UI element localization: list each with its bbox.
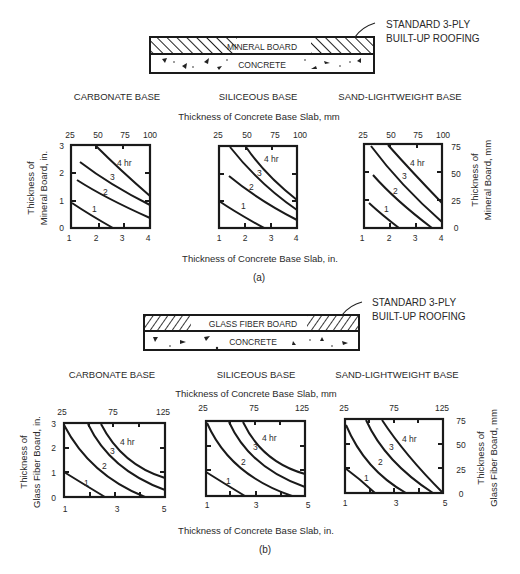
- chart-a-carbonate: 255075100 1 2 3 4 hr 0123 1234: [59, 130, 157, 243]
- svg-text:2575125: 2575125: [57, 407, 170, 417]
- y-ticks-in: 0123: [59, 141, 64, 233]
- svg-text:2575125: 2575125: [339, 403, 449, 413]
- right-axis-title-b1: Thickness of: [475, 431, 486, 485]
- hatch-left-b: [145, 315, 191, 331]
- svg-text:135: 135: [343, 498, 448, 508]
- bottom-axis-title-a: Thickness of Concrete Base Slab, in.: [182, 253, 338, 264]
- board-label-b: GLASS FIBER BOARD: [209, 319, 297, 329]
- svg-text:1 2 3 4 hr: 1 2 3 4 hr: [226, 433, 277, 486]
- callout-text-a2: BUILT-UP ROOFING: [386, 33, 480, 44]
- callout-line-a: [355, 23, 375, 37]
- svg-text:255075100: 255075100: [213, 130, 307, 140]
- callout-text-b2: BUILT-UP ROOFING: [372, 311, 466, 322]
- y-ticks-mm: 0255075: [451, 142, 461, 233]
- panel-title-b-carbonate: CARBONATE BASE: [69, 369, 155, 380]
- left-axis-title-a2: Mineral Board, in.: [38, 151, 49, 225]
- chart-a-siliceous: 255075100 1 2 3 4 hr 1234: [213, 130, 307, 243]
- section-diagram-b: GLASS FIBER BOARD CONCRETE STANDARD 3-PL…: [144, 297, 466, 350]
- bottom-axis-title-b: Thickness of Concrete Base Slab, in.: [178, 525, 334, 536]
- top-axis-title-b: Thickness of Concrete Base Slab, mm: [175, 388, 337, 399]
- callout-text-a1: STANDARD 3-PLY: [386, 19, 470, 30]
- board-label-a: MINERAL BOARD: [227, 42, 297, 52]
- svg-text:1234: 1234: [217, 233, 299, 243]
- svg-text:255075100: 255075100: [358, 130, 450, 140]
- concrete-label-a: CONCRETE: [238, 60, 286, 70]
- right-axis-title-b2: Glass Fiber Board, mm: [488, 409, 499, 507]
- rating-curves: [72, 146, 150, 228]
- svg-text:1 2 3 4 hr: 1 2 3 4 hr: [92, 158, 132, 214]
- svg-text:135: 135: [205, 500, 311, 510]
- section-diagram-a: MINERAL BOARD CONCRETE STANDARD 3-PLY BU…: [150, 19, 480, 73]
- hatch-right-b: [307, 315, 358, 331]
- svg-text:135: 135: [63, 504, 167, 514]
- svg-text:0123: 0123: [51, 419, 56, 503]
- svg-text:0255075: 0255075: [456, 416, 466, 499]
- fire-resistance-figure: MINERAL BOARD CONCRETE STANDARD 3-PLY BU…: [0, 0, 520, 574]
- left-axis-title-b1: Thickness of: [18, 435, 29, 489]
- svg-text:1234: 1234: [360, 233, 444, 243]
- panel-title-a-sandlw: SAND-LIGHTWEIGHT BASE: [338, 91, 461, 102]
- chart-b-sand-lightweight: 2575125 1 2 3 4 hr 135 0255075: [339, 403, 466, 508]
- top-axis-title-a: Thickness of Concrete Base Slab, mm: [178, 111, 340, 122]
- right-axis-title-a1: Thickness of: [469, 153, 480, 207]
- svg-text:2575125: 2575125: [198, 403, 309, 413]
- chart-a-sand-lightweight: 255075100 1 2 3 4 hr 1234 0255075: [358, 130, 461, 243]
- hatch-right-a: [311, 37, 374, 54]
- caption-b: (b): [259, 544, 271, 555]
- x-ticks-in: 1234: [67, 233, 151, 243]
- caption-a: (a): [253, 272, 265, 283]
- left-axis-title-b2: Glass Fiber Board, in.: [31, 416, 42, 508]
- hatch-left-a: [151, 37, 237, 54]
- panel-title-b-siliceous: SILICEOUS BASE: [217, 369, 296, 380]
- panel-title-a-carbonate: CARBONATE BASE: [74, 91, 160, 102]
- svg-text:1 2 3 4 hr: 1 2 3 4 hr: [241, 154, 279, 211]
- callout-line-b: [342, 302, 362, 315]
- panel-title-b-sandlw: SAND-LIGHTWEIGHT BASE: [335, 369, 458, 380]
- concrete-label-b: CONCRETE: [229, 337, 277, 347]
- chart-b-carbonate: 2575125 1 2 3 4 hr 0123 135: [51, 407, 170, 514]
- callout-text-b1: STANDARD 3-PLY: [372, 297, 456, 308]
- right-axis-title-a2: Mineral Board, mm: [482, 140, 493, 220]
- left-axis-title-a1: Thickness of: [25, 161, 36, 215]
- x-ticks-mm: 255075100: [65, 130, 157, 140]
- panel-title-a-siliceous: SILICEOUS BASE: [219, 91, 298, 102]
- chart-b-siliceous: 2575125 1 2 3 4 hr 135: [198, 403, 310, 510]
